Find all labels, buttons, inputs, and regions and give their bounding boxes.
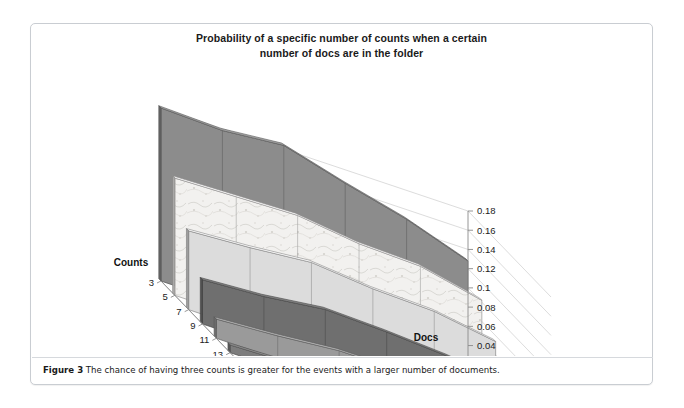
axis-tick-label: 9 xyxy=(190,320,195,331)
axis-tick-label: 0.1 xyxy=(477,282,490,293)
counts-axis-title: Counts xyxy=(114,257,149,268)
axis-tick-label: 7 xyxy=(176,306,181,317)
figure-caption-label: Figure 3 xyxy=(43,365,83,375)
chart-title-line-2: number of docs are in the folder xyxy=(31,46,652,61)
axis-tick-label: 13 xyxy=(213,349,224,356)
axis-tick-label: 0.14 xyxy=(477,244,496,255)
axis-tick-label: 11 xyxy=(199,334,209,345)
axis-tick-label: 0.18 xyxy=(477,205,496,216)
chart-title: Probability of a specific number of coun… xyxy=(31,31,652,61)
three-d-area-chart: 00.020.040.060.080.10.120.140.160.186543… xyxy=(31,66,654,356)
figure-caption: Figure 3 The chance of having three coun… xyxy=(43,364,643,376)
chart-plot-area: 00.020.040.060.080.10.120.140.160.186543… xyxy=(31,66,654,356)
axis-tick-label: 0.06 xyxy=(477,321,496,332)
figure-frame: Probability of a specific number of coun… xyxy=(30,23,653,385)
chart-title-line-1: Probability of a specific number of coun… xyxy=(31,31,652,46)
caption-separator xyxy=(32,357,653,358)
docs-axis-title: Docs xyxy=(414,332,439,343)
axis-tick-label: 3 xyxy=(149,277,154,288)
axis-tick-label: 0.08 xyxy=(477,302,496,313)
figure-caption-text: The chance of having three counts is gre… xyxy=(83,365,500,375)
axis-tick-label: 0.16 xyxy=(477,225,496,236)
axis-tick-label: 0.12 xyxy=(477,263,496,274)
axis-tick-label: 5 xyxy=(163,291,168,302)
axis-tick-label: 0.04 xyxy=(477,340,496,351)
